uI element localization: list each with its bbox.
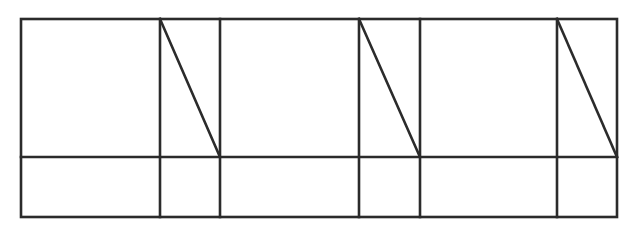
grid-diagram [0,0,633,227]
outer-border [21,19,617,217]
diagonal-line [557,19,617,157]
diagonal-line [160,19,220,157]
diagonal-line [359,19,420,157]
